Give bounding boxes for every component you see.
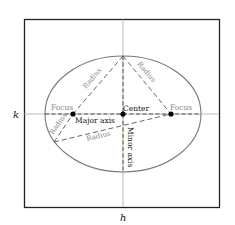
focus-left-label: Focus bbox=[51, 103, 73, 112]
ellipse-diagram: k h Focus Focus Center Major axis Minor … bbox=[0, 0, 235, 225]
radius-lower-left-label: Radius bbox=[48, 111, 69, 136]
focus-right-label: Focus bbox=[170, 103, 192, 112]
k-label: k bbox=[13, 109, 19, 120]
radius-top-right-label: Radius bbox=[135, 60, 157, 84]
radius-bottom-label: Radius bbox=[86, 130, 112, 143]
major-axis-label: Major axis bbox=[75, 116, 115, 125]
right-focus-point bbox=[168, 111, 173, 116]
radius-top-left-label: Radius bbox=[81, 66, 103, 90]
minor-axis-label: Minor axis bbox=[126, 127, 135, 167]
center-label: Center bbox=[123, 104, 149, 113]
h-label: h bbox=[120, 212, 126, 223]
